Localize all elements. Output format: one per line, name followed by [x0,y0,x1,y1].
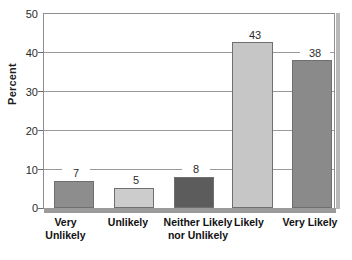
gridline-30 [44,91,334,92]
bar-chart: Percent 50 40 30 20 10 0 7 5 8 43 38 [0,0,352,260]
y-tick-label-50: 50 [20,8,38,20]
axis-baseline-shadow [44,208,336,213]
x-label-likely: Likely [222,216,276,229]
bar-unlikely [114,188,154,208]
y-tick-label-30: 30 [20,86,38,98]
x-label-very-likely: Very Likely [272,216,348,229]
gridline-20 [44,130,334,131]
bar-likely [232,42,273,208]
y-tick-label-0: 0 [20,202,38,214]
x-label-unlikely: Unlikely [97,216,159,229]
x-label-line-2: nor Unlikely [154,229,242,242]
bar-very-likely [292,60,332,208]
x-label-very-unlikely: Very Unlikely [33,216,98,242]
x-label-line-1: Very [33,216,98,229]
y-tick-label-10: 10 [20,164,38,176]
bar-value-neither: 8 [182,164,210,175]
bar-value-very-unlikely: 7 [62,168,90,179]
bar-value-likely: 43 [240,30,270,41]
x-label-line-2: Unlikely [33,229,98,242]
bar-value-very-likely: 38 [300,48,330,59]
bar-neither-likely-nor-unlikely [174,177,214,208]
y-axis-title: Percent [6,44,18,124]
x-label-line-1: Very Likely [272,216,348,229]
gridline-40 [44,52,334,53]
plot-area: 7 5 8 43 38 [43,13,335,209]
y-tick-label-40: 40 [20,47,38,59]
x-label-line-1: Likely [222,216,276,229]
bar-value-unlikely: 5 [122,175,150,186]
bar-very-unlikely [54,181,94,208]
x-label-line-1: Unlikely [97,216,159,229]
y-tick-label-20: 20 [20,125,38,137]
axis-right-shadow [336,13,340,209]
